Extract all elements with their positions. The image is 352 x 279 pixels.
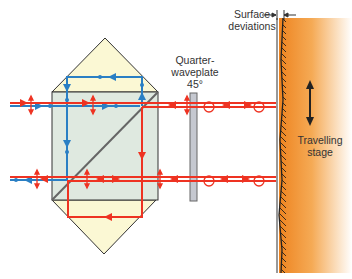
waveplate-label-line2: waveplate bbox=[163, 66, 227, 78]
surface-label-line1: Surface bbox=[222, 8, 282, 20]
waveplate-label-line1: Quarter- bbox=[163, 54, 227, 66]
quarter-waveplate bbox=[190, 93, 197, 201]
quarter-waveplate-label: Quarter- waveplate 45° bbox=[163, 54, 227, 90]
surface-label-line2: deviations bbox=[222, 20, 282, 32]
stage-label-line2: stage bbox=[290, 146, 350, 158]
red-beam bbox=[10, 103, 276, 217]
travelling-stage-label: Travelling stage bbox=[290, 134, 350, 158]
stage-label-line1: Travelling bbox=[290, 134, 350, 146]
waveplate-label-angle: 45° bbox=[163, 78, 227, 90]
circular-polarization-markers bbox=[204, 102, 264, 186]
interferometer-diagram: Surface deviations Quarter- waveplate 45… bbox=[0, 0, 352, 279]
surface-deviations-label: Surface deviations bbox=[222, 8, 282, 32]
